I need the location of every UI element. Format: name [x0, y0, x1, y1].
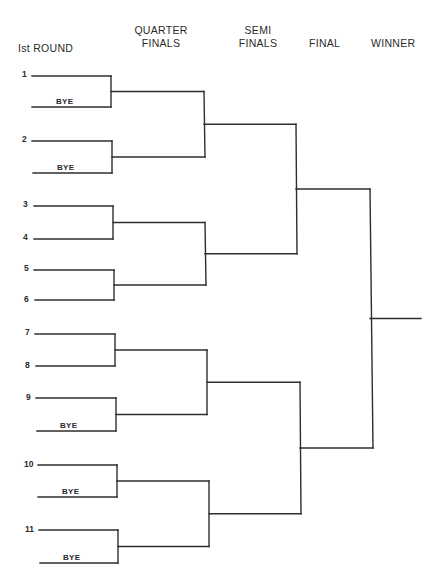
- bracket-line-group: [32, 76, 421, 563]
- bracket-lines: [0, 0, 441, 577]
